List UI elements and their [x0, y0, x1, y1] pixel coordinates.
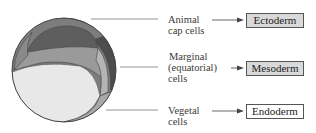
arrow-icon	[212, 109, 244, 114]
vegetal-label: Vegetal cells	[168, 105, 200, 127]
label-line: (equatorial)	[168, 62, 217, 73]
label-line: Vegetal	[168, 105, 200, 116]
label-line: Marginal	[168, 51, 217, 62]
arrow-icon	[212, 18, 244, 23]
label-line: cells	[168, 116, 200, 127]
animal-cap-label: Animal cap cells	[168, 14, 204, 36]
ectoderm-box: Ectoderm	[246, 13, 304, 28]
endoderm-box: Endoderm	[246, 104, 304, 119]
sphere-regions	[0, 0, 140, 133]
label-line: cap cells	[168, 25, 204, 36]
marginal-label: Marginal (equatorial) cells	[168, 51, 217, 84]
label-line: Animal	[168, 14, 204, 25]
arrow-icon	[231, 66, 244, 71]
mesoderm-box: Mesoderm	[246, 61, 304, 76]
label-line: cells	[168, 73, 217, 84]
